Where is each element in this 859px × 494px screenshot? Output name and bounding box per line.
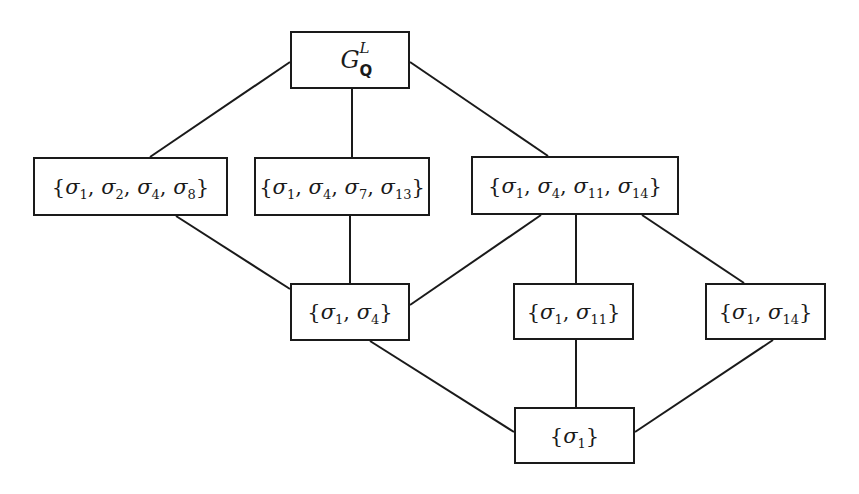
subgroup-label: {σ1, σ2, σ4, σ8} (52, 175, 209, 199)
sigma-element: σ11 (576, 300, 607, 324)
subgroup-label: {σ1, σ4} (307, 300, 392, 324)
node-subgroup-1-14: {σ1, σ14} (705, 283, 826, 340)
sigma-element: σ1 (732, 300, 755, 324)
galois-group-label: GLQ (340, 46, 359, 74)
sigma-element: σ1 (540, 300, 563, 324)
edge-s14-s1 (370, 341, 514, 432)
edge-top-s141114 (410, 62, 548, 156)
edge-top-s1248 (150, 62, 290, 157)
sigma-element: σ1 (273, 175, 296, 199)
sigma-element: σ11 (573, 174, 604, 198)
sigma-element: σ4 (309, 175, 332, 199)
node-subgroup-1: {σ1} (514, 407, 635, 464)
subgroup-label: {σ1, σ14} (719, 300, 813, 324)
node-subgroup-1-2-4-8: {σ1, σ2, σ4, σ8} (33, 157, 228, 216)
sigma-element: σ1 (563, 424, 586, 448)
label-superscript: L (359, 39, 369, 57)
sigma-element: σ4 (357, 300, 380, 324)
label-base: G (340, 46, 359, 74)
sigma-element: σ1 (321, 300, 344, 324)
edge-s1248-s14 (176, 216, 290, 289)
sigma-element: σ7 (345, 175, 368, 199)
sigma-element: σ14 (618, 174, 649, 198)
sigma-element: σ2 (101, 175, 124, 199)
node-subgroup-1-4-11-14: {σ1, σ4, σ11, σ14} (471, 156, 679, 215)
edge-s114-s1 (635, 340, 773, 432)
node-subgroup-1-4: {σ1, σ4} (290, 283, 410, 341)
node-subgroup-1-4-7-13: {σ1, σ4, σ7, σ13} (254, 157, 430, 216)
sigma-element: σ8 (173, 175, 196, 199)
node-subgroup-1-11: {σ1, σ11} (513, 283, 634, 340)
sigma-element: σ4 (537, 174, 560, 198)
subgroup-label: {σ1, σ4, σ11, σ14} (488, 174, 662, 198)
node-galois-group: GLQ (290, 31, 410, 89)
subgroup-label: {σ1, σ4, σ7, σ13} (259, 175, 425, 199)
subgroup-label: {σ1, σ11} (527, 300, 621, 324)
subgroup-label: {σ1} (550, 424, 599, 448)
sigma-element: σ13 (381, 175, 412, 199)
lattice-edges (0, 0, 859, 494)
sigma-element: σ1 (65, 175, 88, 199)
sigma-element: σ1 (501, 174, 524, 198)
sigma-element: σ14 (768, 300, 799, 324)
edge-s141114-s114 (642, 215, 744, 283)
label-subscript: Q (359, 62, 372, 80)
sigma-element: σ4 (137, 175, 160, 199)
